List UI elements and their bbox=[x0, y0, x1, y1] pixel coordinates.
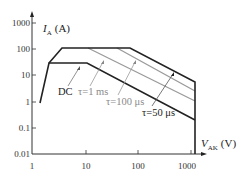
dc-callout-line bbox=[68, 68, 79, 86]
arrow-icon bbox=[171, 72, 174, 76]
arrow-icon bbox=[133, 60, 136, 64]
tau-50us-callout-line bbox=[152, 74, 173, 106]
arrow-icon bbox=[77, 66, 80, 70]
x-tick-label: 100 bbox=[131, 161, 145, 171]
y-tick-label: 0.1 bbox=[19, 123, 30, 133]
axes: 1000 100 10 1 0.1 0.01 1 10 100 1000 IA(… bbox=[12, 11, 236, 171]
y-tick-label: 1 bbox=[26, 97, 31, 107]
y-axis-arrow-icon bbox=[30, 11, 34, 17]
y-tick-label: 10 bbox=[21, 70, 31, 80]
x-tick-label: 10 bbox=[82, 161, 92, 171]
x-tick-label: 1000 bbox=[178, 161, 197, 171]
x-axis-arrow-icon bbox=[201, 152, 207, 156]
y-axis-title: IA(A) bbox=[42, 22, 70, 37]
safe-operating-area-chart: 1000 100 10 1 0.1 0.01 1 10 100 1000 IA(… bbox=[0, 0, 248, 180]
x-axis-title: VAK(V) bbox=[201, 137, 236, 152]
label-tau-50us: τ=50 μs bbox=[142, 107, 175, 118]
label-tau-1ms: τ=1 ms bbox=[78, 86, 108, 97]
label-dc: DC bbox=[58, 86, 73, 97]
y-tick-label: 100 bbox=[17, 44, 31, 54]
label-tau-100us: τ=100 μs bbox=[106, 96, 144, 107]
y-tick-label: 0.01 bbox=[14, 149, 30, 159]
x-tick-label: 1 bbox=[30, 161, 35, 171]
arrow-icon bbox=[101, 60, 104, 64]
y-tick-label: 1000 bbox=[12, 18, 31, 28]
